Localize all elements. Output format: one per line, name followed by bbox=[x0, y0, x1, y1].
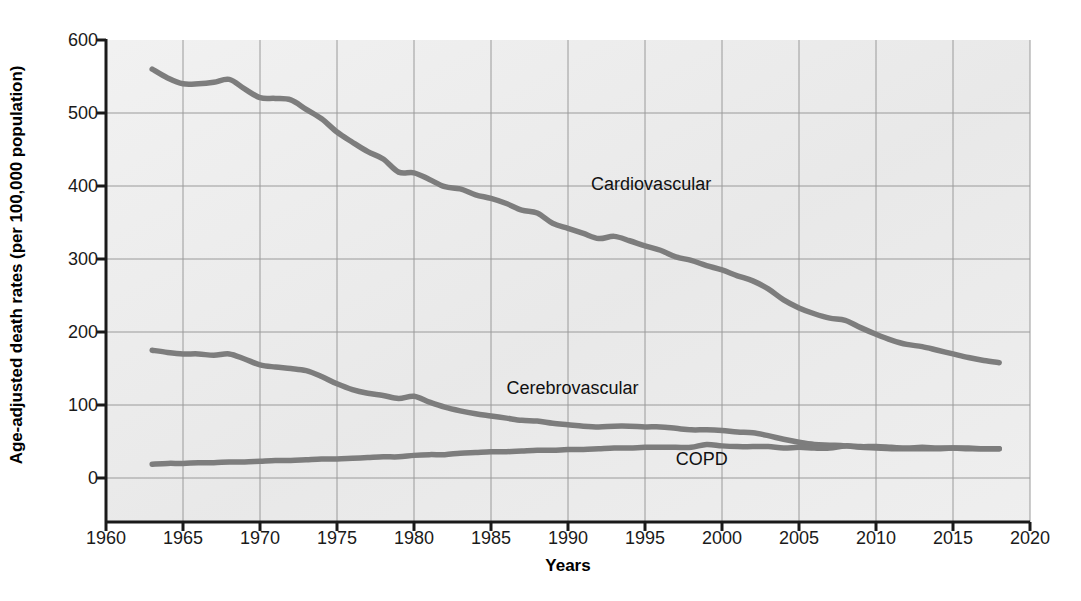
series-label-cardiovascular: Cardiovascular bbox=[591, 174, 711, 195]
series-label-cerebrovascular: Cerebrovascular bbox=[506, 378, 638, 399]
series-label-copd: COPD bbox=[676, 449, 728, 470]
plot-area bbox=[0, 0, 1081, 601]
chart-figure: Age-adjusted death rates (per 100,000 po… bbox=[0, 0, 1081, 601]
